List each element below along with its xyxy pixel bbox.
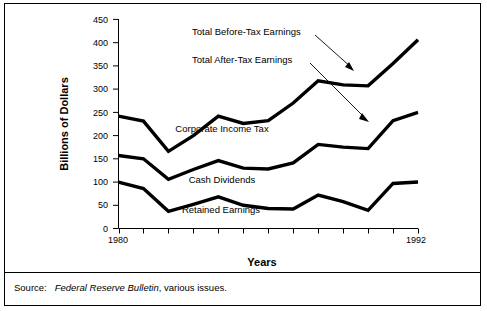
line-chart-svg: Billions of Dollars 0 50 100 [0,0,487,272]
x-tick-label-start: 1980 [108,235,128,245]
y-axis-tick-labels: 0 50 100 150 200 250 300 350 400 450 [93,15,108,234]
y-tick-label: 300 [93,84,108,94]
y-tick-label: 150 [93,154,108,164]
x-axis-ticks [120,229,419,234]
annotation-label-total-before-tax-earnings: Total Before-Tax Earnings [192,26,301,37]
source-note: Source: Federal Reserve Bulletin, variou… [14,282,227,293]
band-label-retained-earnings: Retained Earnings [182,204,260,215]
annotation-arrow-after-tax [310,63,369,122]
chart-area: Billions of Dollars 0 50 100 [0,0,487,272]
x-tick-label-end: 1992 [406,235,426,245]
band-label-cash-dividends: Cash Dividends [189,174,256,185]
y-axis-title: Billions of Dollars [58,77,70,171]
y-tick-label: 350 [93,61,108,71]
source-publication: Federal Reserve Bulletin [55,282,159,293]
annotation-label-total-after-tax-earnings: Total After-Tax Earnings [192,54,293,65]
series-line-retained-earnings [119,182,419,211]
y-tick-label: 0 [103,224,108,234]
y-axis-ticks [113,19,119,228]
y-tick-label: 250 [93,108,108,118]
y-tick-label: 200 [93,131,108,141]
figure-container: Billions of Dollars 0 50 100 [0,0,487,311]
y-tick-label: 450 [93,15,108,25]
figure-divider [4,272,481,273]
y-tick-label: 50 [98,200,108,210]
y-tick-label: 100 [93,177,108,187]
source-rest: , various issues. [159,282,227,293]
annotation-arrow-before-tax [315,35,354,71]
band-label-corporate-income-tax: Corporate Income Tax [175,123,269,134]
source-label: Source: [14,282,47,293]
x-axis-title: Years [247,256,276,268]
y-tick-label: 400 [93,38,108,48]
